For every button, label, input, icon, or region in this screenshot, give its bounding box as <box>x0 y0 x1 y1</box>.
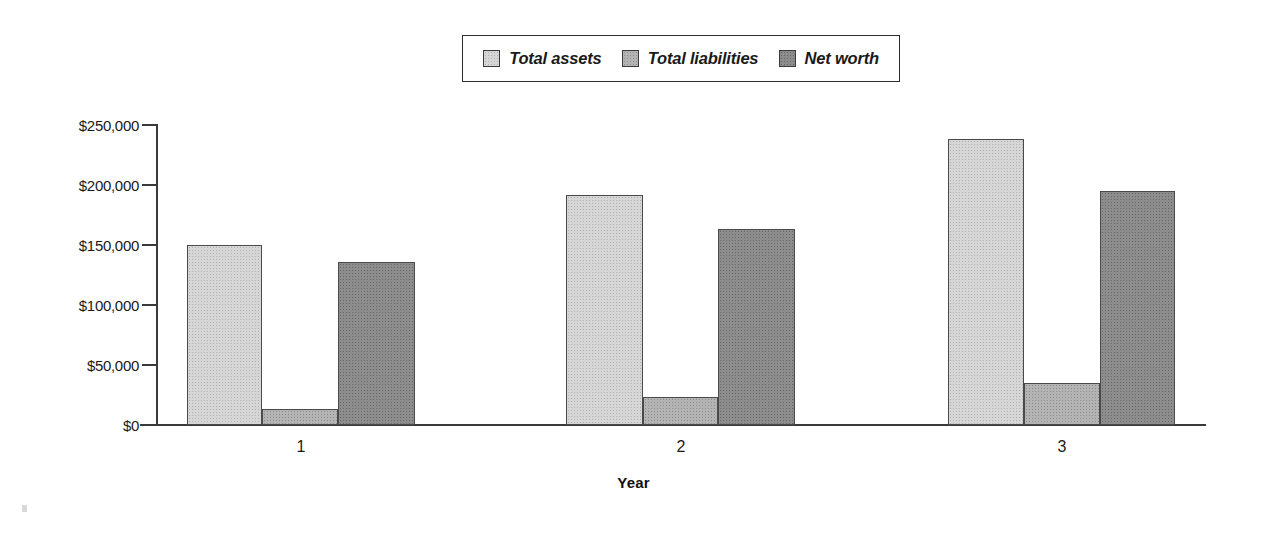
y-tick-label-200000: $200,000 <box>79 177 139 194</box>
bar-year3-total-liabilities <box>1024 383 1100 425</box>
bar-year1-total-assets <box>187 245 262 425</box>
y-axis-line <box>156 124 158 426</box>
bar-year3-net-worth <box>1100 191 1175 425</box>
y-tick-200000 <box>142 184 157 186</box>
bar-year2-total-liabilities <box>643 397 718 425</box>
y-tick-label-150000: $150,000 <box>79 237 139 254</box>
y-tick-label-100000: $100,000 <box>79 297 139 314</box>
y-tick-label-0: $0 <box>123 417 139 434</box>
bar-year3-total-assets <box>948 139 1024 425</box>
bar-year1-total-liabilities <box>262 409 338 425</box>
x-tick-label-2: 2 <box>677 438 686 456</box>
y-tick-250000 <box>142 124 157 126</box>
plot-area: $250,000 $200,000 $150,000 $100,000 $50,… <box>0 0 1267 535</box>
x-tick-label-1: 1 <box>297 438 306 456</box>
bar-year1-net-worth <box>338 262 415 425</box>
y-tick-50000 <box>142 364 157 366</box>
y-tick-100000 <box>142 304 157 306</box>
y-tick-label-250000: $250,000 <box>79 117 139 134</box>
y-tick-150000 <box>142 244 157 246</box>
y-tick-0 <box>142 424 157 426</box>
bar-year2-total-assets <box>566 195 643 425</box>
scan-artifact <box>22 505 27 512</box>
bar-year2-net-worth <box>718 229 795 425</box>
bar-chart: Total assets Total liabilities Net worth… <box>0 0 1267 535</box>
y-tick-label-50000: $50,000 <box>87 357 139 374</box>
x-tick-label-3: 3 <box>1058 438 1067 456</box>
x-axis-title: Year <box>0 474 1267 491</box>
